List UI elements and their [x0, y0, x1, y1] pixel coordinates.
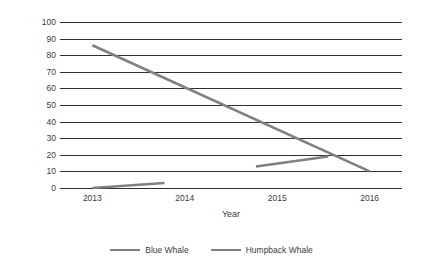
y-tick-label: 90	[26, 34, 56, 44]
x-axis-title: Year	[60, 208, 402, 220]
chart-legend: Blue WhaleHumpback Whale	[0, 240, 423, 260]
x-axis-tick-labels: 2013201420152016	[60, 192, 402, 206]
y-tick-label: 20	[26, 150, 56, 160]
y-tick-label: 60	[26, 83, 56, 93]
series-line	[256, 156, 328, 166]
x-tick-label: 2016	[340, 192, 400, 204]
x-tick-label: 2015	[247, 192, 307, 204]
x-tick-label: 2013	[62, 192, 122, 204]
plot-area	[60, 22, 402, 188]
y-axis-tick-labels: 0102030405060708090100	[26, 16, 56, 196]
legend-label: Humpback Whale	[246, 245, 313, 256]
line-chart: Number of Individuals 010203040506070809…	[0, 0, 423, 266]
legend-line-swatch-icon	[110, 249, 140, 251]
y-tick-label: 40	[26, 117, 56, 127]
y-tick-label: 100	[26, 17, 56, 27]
y-tick-label: 80	[26, 50, 56, 60]
y-tick-label: 70	[26, 67, 56, 77]
legend-line-swatch-icon	[211, 249, 241, 251]
legend-item[interactable]: Blue Whale	[110, 245, 188, 256]
gridline	[60, 188, 402, 189]
series-lines	[60, 22, 402, 188]
x-tick-label: 2014	[155, 192, 215, 204]
y-tick-label: 30	[26, 133, 56, 143]
legend-item[interactable]: Humpback Whale	[211, 245, 313, 256]
legend-label: Blue Whale	[145, 245, 188, 256]
y-tick-label: 10	[26, 166, 56, 176]
series-line	[92, 183, 164, 188]
series-line	[92, 45, 369, 171]
y-tick-label: 0	[26, 183, 56, 193]
y-tick-label: 50	[26, 100, 56, 110]
